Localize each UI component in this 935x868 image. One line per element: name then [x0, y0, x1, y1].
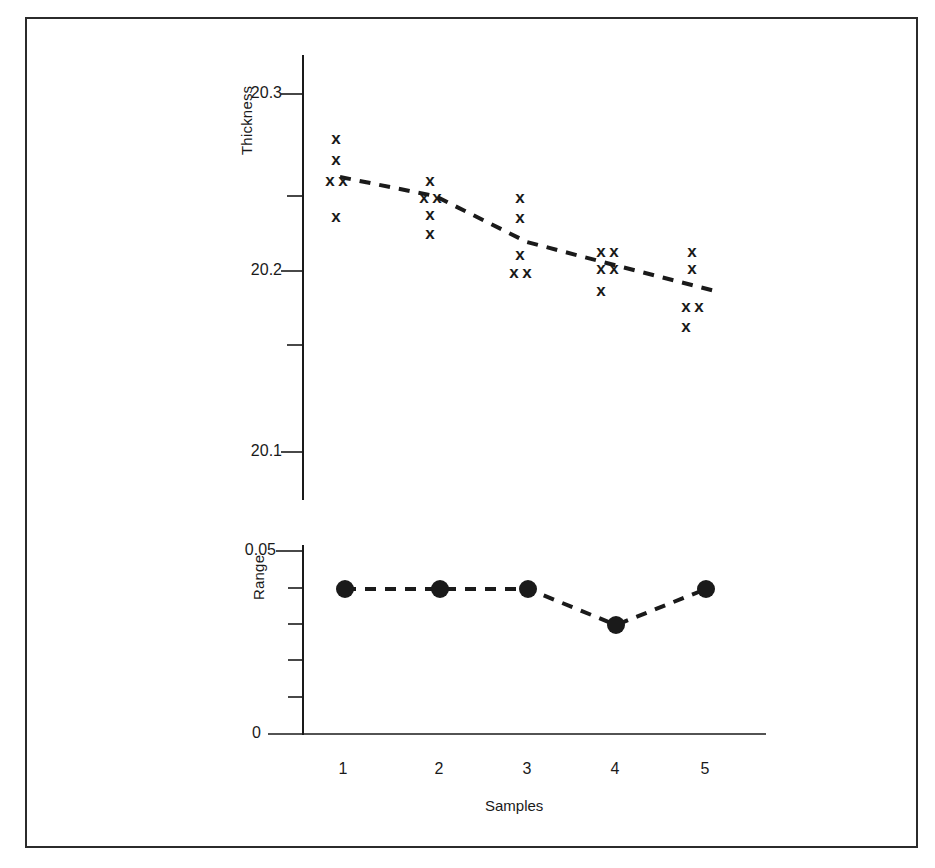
sample-tick-label-5: 5 — [687, 760, 723, 778]
svg-text:x: x — [425, 205, 435, 224]
sample-tick-label-4: 4 — [597, 760, 633, 778]
svg-text:x: x — [694, 297, 704, 316]
thickness-tick-label-20-2: 20.2 — [232, 261, 282, 279]
svg-text:x: x — [331, 150, 341, 169]
svg-text:x: x — [522, 263, 532, 282]
svg-text:x: x — [515, 245, 525, 264]
svg-text:x: x — [425, 224, 435, 243]
range-tick-label-0: 0 — [226, 724, 261, 742]
sample-tick-label-2: 2 — [421, 760, 457, 778]
svg-text:x: x — [331, 129, 341, 148]
chart-canvas: x x x x x x x x x x x x x x x x x x x x … — [0, 0, 935, 868]
thickness-data-markers: x x x x x x x x x x x x x x x x x x x x … — [325, 129, 704, 336]
thickness-tick-label-20-1: 20.1 — [232, 442, 282, 460]
svg-text:x: x — [681, 297, 691, 316]
svg-text:x: x — [609, 259, 619, 278]
svg-text:x: x — [681, 317, 691, 336]
svg-text:x: x — [338, 171, 348, 190]
svg-text:x: x — [596, 281, 606, 300]
svg-text:x: x — [596, 259, 606, 278]
svg-text:x: x — [687, 259, 697, 278]
thickness-axis-title: Thickness — [238, 86, 255, 155]
range-chart-group — [268, 545, 766, 735]
thickness-chart-group: x x x x x x x x x x x x x x x x x x x x … — [281, 55, 715, 500]
range-axis-title: Range — [250, 555, 267, 600]
samples-axis-title: Samples — [485, 797, 543, 814]
sample-tick-label-3: 3 — [509, 760, 545, 778]
svg-text:x: x — [509, 263, 519, 282]
sample-tick-label-1: 1 — [325, 760, 361, 778]
svg-text:x: x — [331, 207, 341, 226]
svg-text:x: x — [515, 188, 525, 207]
svg-text:x: x — [325, 171, 335, 190]
svg-text:x: x — [515, 208, 525, 227]
